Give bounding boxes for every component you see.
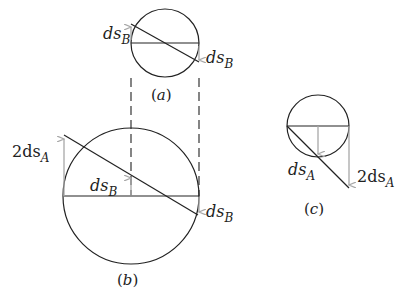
panel-c: dsA 2dsA (c) bbox=[287, 95, 395, 218]
diagram-canvas: dsB dsB (a) 2dsA dsB dsB (b) dsA 2dsA (c… bbox=[0, 0, 410, 294]
label-a-right: dsB bbox=[206, 48, 233, 71]
label-c-dsA: dsA bbox=[288, 160, 315, 183]
label-a-left: dsB bbox=[103, 24, 130, 47]
label-b-2dsA: 2dsA bbox=[12, 142, 50, 165]
caption-b: (b) bbox=[117, 271, 138, 289]
panel-a: dsB dsB (a) bbox=[103, 9, 233, 196]
label-c-2dsA: 2dsA bbox=[357, 167, 395, 190]
caption-a: (a) bbox=[151, 86, 172, 104]
label-b-dsB-right: dsB bbox=[206, 202, 233, 225]
panel-b: 2dsA dsB dsB (b) bbox=[12, 128, 233, 289]
caption-c: (c) bbox=[304, 200, 324, 218]
